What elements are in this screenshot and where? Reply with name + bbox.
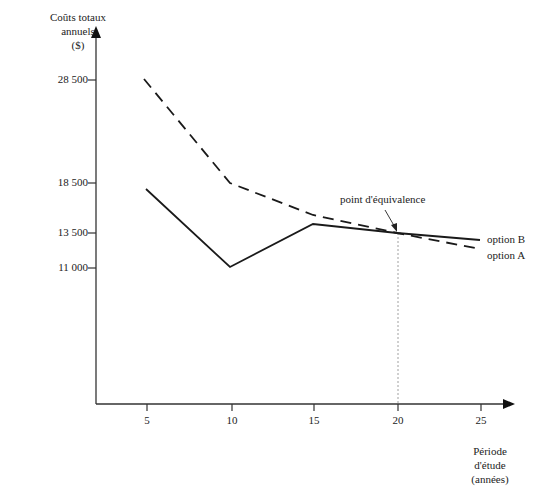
y-axis-label-line: Coûts totaux (38, 10, 118, 24)
option-b-label: option B (487, 233, 525, 246)
y-axis-label-line: ($) (38, 38, 118, 52)
x-axis-label-line: d'étude (458, 458, 522, 472)
equivalence-arrowhead-icon (391, 223, 397, 232)
x-axis-label-line: Période (458, 444, 522, 458)
equivalence-label: point d'équivalence (340, 193, 425, 206)
x-tick-label: 10 (217, 414, 247, 427)
y-axis-label-line: annuels (38, 24, 118, 38)
y-tick-label: 28 500 (58, 73, 88, 86)
y-tick-label: 18 500 (58, 176, 88, 189)
x-ticks (147, 404, 481, 411)
option-a-label: option A (487, 249, 525, 262)
y-tick-label: 11 000 (58, 261, 88, 274)
x-tick-label: 25 (466, 414, 496, 427)
x-axis-arrow-icon (503, 399, 515, 409)
x-axis-label-line: (années) (458, 472, 522, 486)
y-tick-label: 13 500 (58, 226, 88, 239)
x-tick-label: 5 (132, 414, 162, 427)
x-tick-label: 20 (383, 414, 413, 427)
x-tick-label: 15 (299, 414, 329, 427)
x-axis-label: Période d'étude (années) (458, 444, 522, 486)
y-ticks (88, 80, 96, 268)
series-option-a (144, 79, 480, 249)
y-axis-label: Coûts totaux annuels ($) (38, 10, 118, 52)
series-option-b (146, 189, 480, 267)
